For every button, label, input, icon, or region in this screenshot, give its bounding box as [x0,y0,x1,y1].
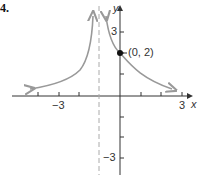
curve-left-branch [30,16,93,89]
x-tick-label-3: 3 [179,99,185,111]
x-axis-label: x [191,98,197,110]
x-tick-label-neg3: −3 [52,99,65,111]
point-0-2 [117,50,123,56]
y-tick-label-neg3: −3 [103,151,116,163]
y-axis-label: y [113,2,119,14]
x-ticks [38,92,182,96]
y-tick-label-3: 3 [111,25,117,37]
point-label: (0, 2) [128,46,154,58]
